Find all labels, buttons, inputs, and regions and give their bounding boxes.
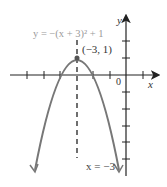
- vertex-label: (−3, 1): [82, 43, 112, 55]
- y-axis-label: y: [117, 14, 122, 26]
- vertex-point: [75, 56, 80, 61]
- origin-label: 0: [116, 76, 121, 87]
- curve-arrow-left-icon: [30, 164, 38, 172]
- equation-label: y = −(x + 3)² + 1: [33, 28, 104, 39]
- x-axis-label: x: [148, 78, 153, 90]
- axis-of-symmetry-label: x = −3: [86, 160, 115, 172]
